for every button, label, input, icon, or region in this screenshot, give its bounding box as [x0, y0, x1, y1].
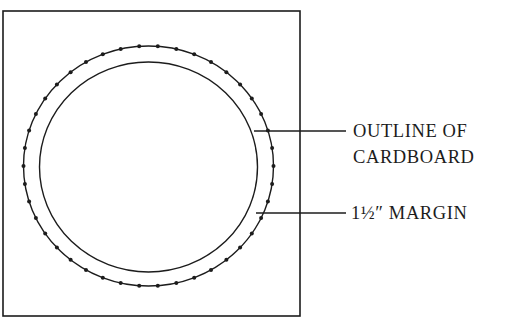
- pin-dot: [84, 268, 88, 272]
- pin-dot: [27, 199, 31, 203]
- pin-dot: [224, 70, 228, 74]
- pin-dot: [22, 164, 26, 168]
- inner-circle-outline: [40, 62, 258, 272]
- outer-dotted-circle: [24, 46, 274, 286]
- pin-dot: [101, 276, 105, 280]
- pin-dot: [259, 216, 263, 220]
- pin-dot: [156, 44, 160, 48]
- pin-dot: [55, 82, 59, 86]
- pin-dot: [69, 258, 73, 262]
- pin-dot: [34, 112, 38, 116]
- pin-dot: [209, 60, 213, 64]
- pin-dot: [192, 52, 196, 56]
- outline-label-line1: OUTLINE OF: [353, 120, 475, 142]
- pin-dot: [224, 258, 228, 262]
- pin-dot: [23, 182, 27, 186]
- pin-dot: [137, 44, 141, 48]
- pin-dot: [192, 276, 196, 280]
- cardboard-square: [3, 11, 300, 316]
- pin-dot: [174, 47, 178, 51]
- outline-label-line2: CARDBOARD: [353, 146, 475, 168]
- pin-dot: [209, 268, 213, 272]
- pin-dot: [119, 281, 123, 285]
- pin-dot: [101, 52, 105, 56]
- pin-dot: [55, 246, 59, 250]
- pin-dot: [174, 281, 178, 285]
- pin-dot: [250, 232, 254, 236]
- pin-dot: [23, 146, 27, 150]
- pin-dot: [27, 129, 31, 133]
- pin-dot: [250, 96, 254, 100]
- pin-dot: [272, 164, 276, 168]
- outline-of-cardboard-label: OUTLINE OF CARDBOARD: [353, 120, 475, 168]
- pin-dot: [259, 112, 263, 116]
- pin-dot: [156, 284, 160, 288]
- margin-label-text: 1½″ MARGIN: [351, 202, 468, 224]
- pin-dot: [43, 232, 47, 236]
- pin-dot: [270, 146, 274, 150]
- pin-dot: [266, 199, 270, 203]
- pin-dot: [43, 96, 47, 100]
- pin-dot: [270, 182, 274, 186]
- pin-dot: [238, 246, 242, 250]
- pin-dot: [238, 82, 242, 86]
- pin-dot: [34, 216, 38, 220]
- margin-label: 1½″ MARGIN: [351, 202, 468, 224]
- pin-dot: [119, 47, 123, 51]
- pin-dot: [137, 284, 141, 288]
- pin-dot: [69, 70, 73, 74]
- pin-dot: [84, 60, 88, 64]
